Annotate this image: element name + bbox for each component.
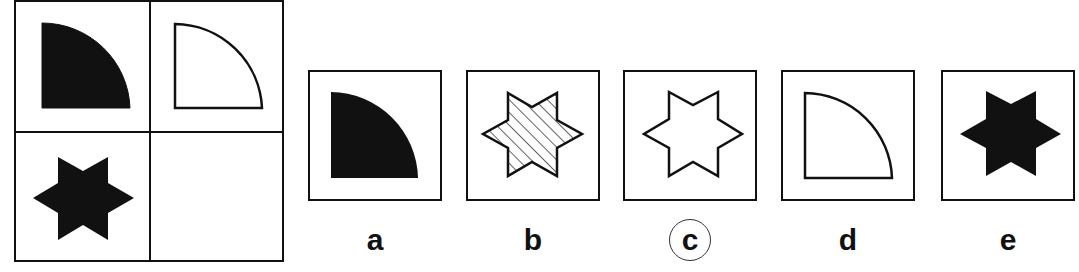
six-point-star-hatched-icon	[468, 72, 597, 198]
quarter-circle-outline-icon	[151, 2, 284, 131]
puzzle-grid	[14, 0, 284, 262]
grid-cell-top-right	[151, 2, 284, 131]
quarter-circle-solid-icon	[310, 72, 439, 198]
grid-cell-bottom-left	[16, 133, 149, 262]
option-c-box[interactable]	[623, 70, 757, 201]
option-b-box[interactable]	[466, 70, 600, 201]
option-e-box[interactable]	[941, 70, 1075, 201]
quarter-circle-solid-icon	[16, 2, 149, 131]
quarter-circle-outline-icon	[783, 72, 912, 198]
option-b-label[interactable]: b	[466, 222, 600, 258]
six-point-star-solid-icon	[943, 72, 1072, 198]
six-point-star-outline-icon	[625, 72, 754, 198]
grid-cell-top-left	[16, 2, 149, 131]
six-point-star-solid-icon	[16, 133, 149, 262]
option-a-box[interactable]	[308, 70, 442, 201]
grid-cell-bottom-right-empty	[151, 133, 284, 262]
option-d-box[interactable]	[781, 70, 915, 201]
option-c-label-selected[interactable]: c	[623, 222, 757, 261]
option-e-label[interactable]: e	[941, 222, 1075, 258]
option-a-label[interactable]: a	[308, 222, 442, 258]
option-d-label[interactable]: d	[781, 222, 915, 258]
